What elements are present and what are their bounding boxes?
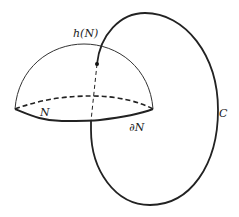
label-hemisphere: h(N) <box>73 27 98 40</box>
intersection-point <box>95 62 99 66</box>
label-disk: N <box>39 106 50 119</box>
hemisphere-arc <box>15 44 153 109</box>
curve-c-hidden-segment <box>91 64 97 121</box>
disk-back-edge <box>15 96 153 109</box>
label-boundary: ∂N <box>129 121 145 134</box>
diagram-canvas: h(N) N ∂N C <box>0 0 239 217</box>
disk-front-edge <box>15 109 153 121</box>
curve-c <box>91 13 218 205</box>
label-curve: C <box>219 107 228 120</box>
